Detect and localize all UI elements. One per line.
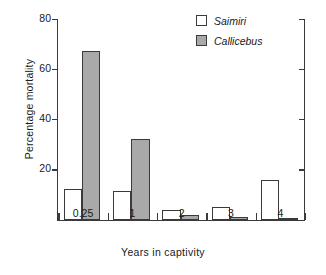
x-tick-sep-4 [256,213,257,220]
y-tick-label-20: 20 [11,162,51,174]
legend-swatch-icon-saimiri [196,15,207,26]
y-tick-label-40: 40 [11,112,51,124]
x-tick-sep-end [305,213,306,220]
y-tick-80 [52,19,57,20]
x-axis-label: Years in captivity [0,246,326,258]
x-tick-label-3: 3 [209,207,253,219]
legend-item-saimiri: Saimiri [196,12,262,29]
y-tick-label-60: 60 [11,62,51,74]
mortality-bar-chart: Percentage mortality 20406080 0.251234 Y… [0,0,326,275]
x-tick-sep-1 [108,213,109,220]
y-tick-40 [52,119,57,120]
x-tick-label-2: 2 [160,207,204,219]
y-tick-60 [52,69,57,70]
y-tick-right-80 [299,19,304,20]
legend: Saimiri Callicebus [196,12,262,52]
legend-label-saimiri: Saimiri [214,15,246,27]
y-tick-right-20 [299,169,304,170]
x-tick-sep-0.25 [58,213,59,220]
legend-swatch-icon-callicebus [196,35,207,46]
y-tick-right-40 [299,119,304,120]
x-tick-sep-2 [157,213,158,220]
x-tick-label-4: 4 [258,207,302,219]
bar-callicebus-0.25 [82,51,100,220]
x-tick-label-0.25: 0.25 [61,207,105,219]
y-tick-20 [52,169,57,170]
x-tick-sep-3 [206,213,207,220]
y-tick-label-80: 80 [11,12,51,24]
x-tick-label-1: 1 [110,207,154,219]
y-tick-right-60 [299,69,304,70]
plot-area: 20406080 [57,19,305,221]
legend-label-callicebus: Callicebus [214,35,262,47]
legend-item-callicebus: Callicebus [196,32,262,49]
y-axis-line [57,19,58,221]
